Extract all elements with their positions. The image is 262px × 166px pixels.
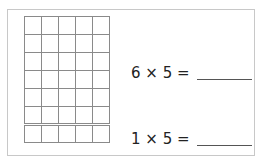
- grid-cell: [42, 35, 59, 53]
- grid-cell: [93, 53, 110, 71]
- grid-row: [25, 35, 110, 53]
- grid-row: [25, 71, 110, 89]
- grid-cell: [42, 107, 59, 125]
- grid-cell: [25, 125, 42, 143]
- equation-1: 6 × 5 =: [131, 64, 252, 82]
- grid-cell: [42, 53, 59, 71]
- array-grid: [24, 16, 110, 143]
- grid-cell: [76, 53, 93, 71]
- grid-row: [25, 107, 110, 125]
- grid-cell: [93, 125, 110, 143]
- grid-cell: [42, 17, 59, 35]
- grid-cell: [25, 107, 42, 125]
- grid-cell: [76, 71, 93, 89]
- grid-cell: [25, 17, 42, 35]
- equation-1-answer-blank[interactable]: [197, 78, 252, 80]
- grid-cell: [59, 125, 76, 143]
- grid-cell: [93, 35, 110, 53]
- grid-cell: [25, 89, 42, 107]
- equation-2-text: 1 × 5 =: [131, 130, 190, 148]
- grid-cell: [93, 89, 110, 107]
- grid-cell: [93, 71, 110, 89]
- grid-row: [25, 125, 110, 143]
- grid-cell: [93, 107, 110, 125]
- grid-cell: [76, 107, 93, 125]
- equation-1-text: 6 × 5 =: [131, 64, 190, 82]
- grid-cell: [25, 53, 42, 71]
- equation-2: 1 × 5 =: [131, 130, 252, 148]
- grid-cell: [59, 89, 76, 107]
- grid-cell: [59, 17, 76, 35]
- grid-row: [25, 53, 110, 71]
- grid-cell: [59, 107, 76, 125]
- grid-cell: [42, 89, 59, 107]
- grid-cell: [76, 17, 93, 35]
- grid-cell: [42, 71, 59, 89]
- grid-row: [25, 89, 110, 107]
- grid-cell: [25, 35, 42, 53]
- grid-cell: [76, 89, 93, 107]
- grid-cell: [93, 17, 110, 35]
- grid-cell: [25, 71, 42, 89]
- grid-cell: [59, 53, 76, 71]
- grid-cell: [42, 125, 59, 143]
- grid-row: [25, 17, 110, 35]
- grid-cell: [76, 35, 93, 53]
- grid-cell: [76, 125, 93, 143]
- grid-cell: [59, 71, 76, 89]
- grid-cell: [59, 35, 76, 53]
- equation-2-answer-blank[interactable]: [197, 144, 252, 146]
